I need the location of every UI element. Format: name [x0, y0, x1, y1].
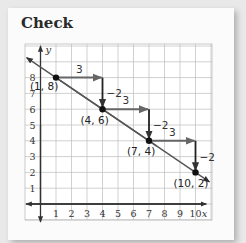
x-tick-label: 2: [68, 208, 74, 219]
x-tick-label: 6: [130, 208, 136, 219]
data-point: [192, 169, 198, 175]
y-tick-label: 4: [29, 135, 35, 146]
x-axis-label: x: [202, 208, 208, 219]
grid-frame: [25, 44, 212, 220]
x-tick-label: 7: [146, 208, 152, 219]
point-label: (7, 4): [127, 145, 155, 157]
x-tick-label: 5: [115, 208, 121, 219]
x-tick-label: 8: [161, 208, 167, 219]
y-tick-label: 1: [29, 183, 35, 194]
run-label: 3: [76, 63, 83, 75]
data-point: [99, 106, 105, 112]
point-label: (4, 6): [81, 114, 109, 126]
y-axis-label: y: [45, 44, 52, 55]
x-tick-label: 4: [99, 208, 105, 219]
run-label: 3: [169, 126, 176, 138]
y-tick-label: 5: [29, 120, 35, 131]
x-tick-label: 9: [177, 208, 183, 219]
coordinate-plane: 1234567891012345678xy3−23−23−2(1, 8)(4, …: [0, 0, 246, 243]
y-tick-label: 6: [29, 104, 35, 115]
x-tick-label: 3: [84, 208, 90, 219]
x-tick-label: 10: [189, 208, 201, 219]
y-tick-label: 2: [29, 167, 35, 178]
data-point: [146, 138, 152, 144]
point-label: (1, 8): [30, 80, 58, 92]
x-tick-label: 1: [53, 208, 59, 219]
y-tick-label: 3: [29, 151, 35, 162]
rise-label: −2: [200, 151, 215, 163]
rise-label: −2: [153, 119, 168, 131]
run-label: 3: [122, 94, 129, 106]
point-label: (10, 2): [174, 177, 209, 189]
rise-label: −2: [107, 87, 122, 99]
